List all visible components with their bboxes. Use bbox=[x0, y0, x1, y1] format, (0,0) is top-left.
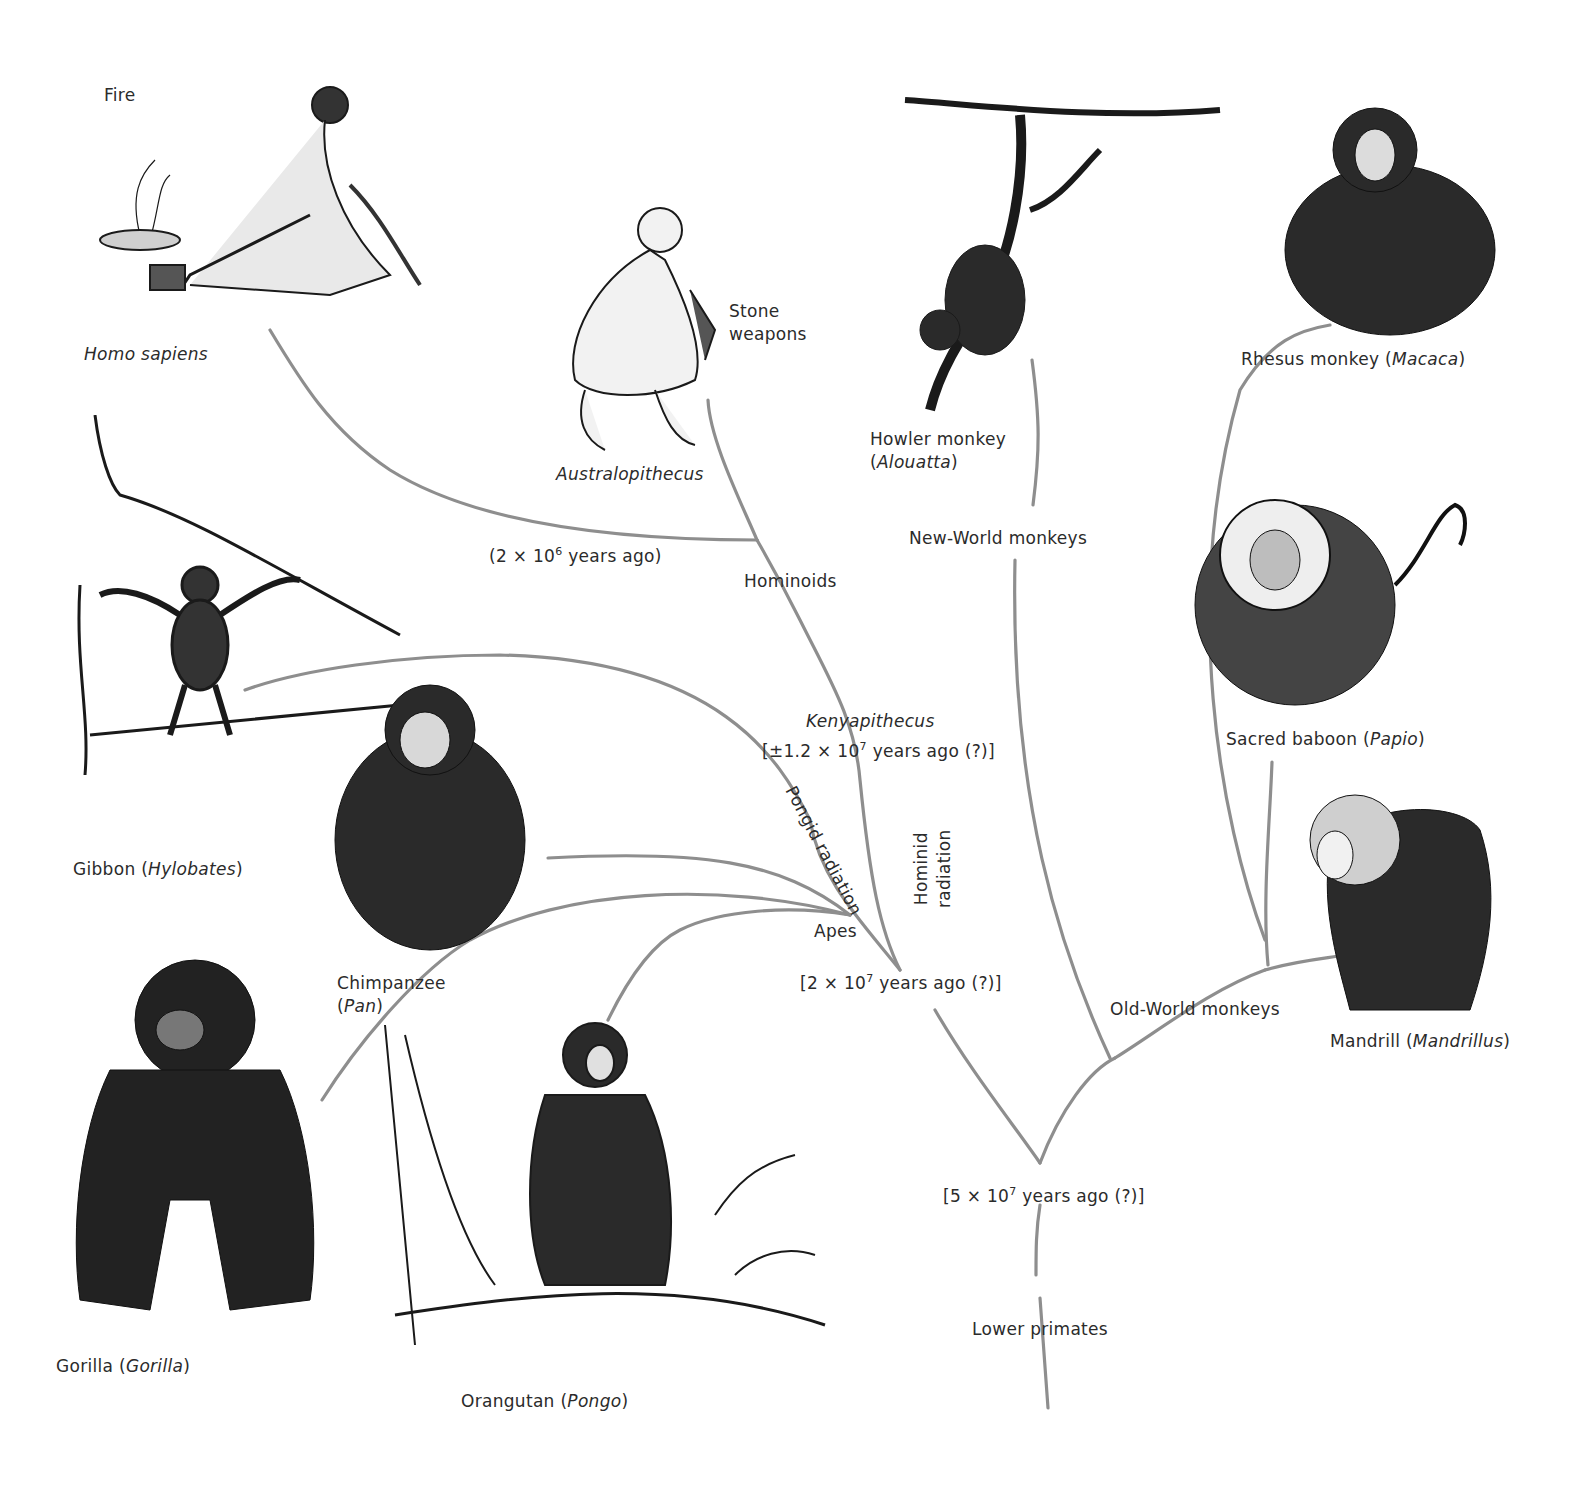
branch-new-world bbox=[1015, 560, 1110, 1058]
orangutan-illustration bbox=[375, 1015, 835, 1355]
clade-label-new-world-monkeys: New-World monkeys bbox=[909, 527, 1087, 550]
howler-monkey-illustration bbox=[900, 90, 1230, 420]
branch-baboon bbox=[1266, 762, 1272, 965]
branch-lower-primates bbox=[1040, 1298, 1048, 1408]
species-label-rhesus-monkey: Rhesus monkey (Macaca) bbox=[1241, 348, 1465, 371]
species-label-howler-monkey: Howler monkey(Alouatta) bbox=[870, 428, 1006, 474]
gorilla-illustration bbox=[60, 950, 330, 1330]
species-label-mandrill: Mandrill (Mandrillus) bbox=[1330, 1030, 1510, 1053]
fossil-label-kenyapithecus: Kenyapithecus bbox=[806, 710, 935, 733]
annotation-root-date: [5 × 107 years ago (?)] bbox=[943, 1185, 1145, 1208]
chimpanzee-illustration bbox=[330, 680, 530, 960]
branch-root-upper bbox=[1036, 1205, 1040, 1275]
mandrill-illustration bbox=[1300, 770, 1510, 1020]
species-label-gorilla: Gorilla (Gorilla) bbox=[56, 1355, 190, 1378]
branch-to-monkeys bbox=[1040, 1058, 1115, 1163]
rhesus-monkey-illustration bbox=[1280, 100, 1520, 340]
annotation-hominoid-date: (2 × 106 years ago) bbox=[489, 545, 662, 568]
species-label-homo-sapiens: Homo sapiens bbox=[84, 343, 208, 366]
species-label-australopithecus: Australopithecus bbox=[556, 463, 704, 486]
species-label-sacred-baboon: Sacred baboon (Papio) bbox=[1226, 728, 1425, 751]
clade-label-apes: Apes bbox=[814, 920, 857, 943]
annotation-apes-date: [2 × 107 years ago (?)] bbox=[800, 972, 1002, 995]
sacred-baboon-illustration bbox=[1185, 475, 1475, 715]
clade-label-lower-primates: Lower primates bbox=[972, 1318, 1108, 1341]
clade-label-hominoids: Hominoids bbox=[744, 570, 837, 593]
branch-to-apes-node bbox=[935, 1010, 1040, 1163]
annotation-kenyapithecus-date: [±1.2 × 107 years ago (?)] bbox=[762, 740, 995, 763]
primate-evolution-diagram: Homo sapiens Australopithecus Howler mon… bbox=[0, 0, 1593, 1486]
annotation-fire: Fire bbox=[104, 84, 136, 107]
australopithecus-illustration bbox=[555, 200, 735, 460]
species-label-gibbon: Gibbon (Hylobates) bbox=[73, 858, 243, 881]
annotation-stone-weapons: Stoneweapons bbox=[729, 300, 807, 346]
species-label-chimpanzee: Chimpanzee(Pan) bbox=[337, 972, 446, 1018]
clade-label-old-world-monkeys: Old-World monkeys bbox=[1110, 998, 1280, 1021]
species-label-orangutan: Orangutan (Pongo) bbox=[461, 1390, 628, 1413]
homo-sapiens-illustration bbox=[80, 65, 440, 345]
annotation-hominid-radiation: Hominidradiation bbox=[910, 829, 956, 908]
